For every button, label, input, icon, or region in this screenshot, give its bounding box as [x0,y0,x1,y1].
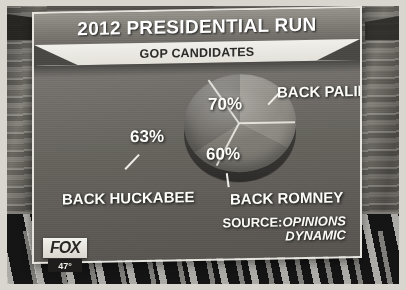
fox-logo: FOX [43,238,87,258]
source-name-line-2: DYNAMIC [222,229,346,245]
page-title: 2012 PRESIDENTIAL RUN [77,13,316,39]
category-label-huckabee: BACK HUCKABEE [62,188,195,207]
leader-line-huckabee [124,154,139,170]
graphic-subtitle: GOP CANDIDATES [140,44,255,60]
category-label-palin: BACK PALIN [277,82,362,101]
value-label-romney: 60% [206,144,240,165]
category-label-romney: BACK ROMNEY [230,188,343,207]
source-attribution: SOURCE:OPINIONS DYNAMIC [222,214,346,245]
pie-chart: 70% 63% 60% BACK PALIN BACK HUCKABEE BAC… [34,60,360,262]
photograph-frame: 2012 PRESIDENTIAL RUN GOP CANDIDATES [0,0,406,290]
fox-logo-text: FOX [50,239,80,257]
value-label-palin: 70% [208,94,242,115]
tv-studio-scene: 2012 PRESIDENTIAL RUN GOP CANDIDATES [7,6,399,284]
temperature-badge: 47° [48,259,82,272]
network-logo-bug: FOX 47° [43,238,87,272]
broadcast-graphic-panel: 2012 PRESIDENTIAL RUN GOP CANDIDATES [32,6,362,264]
value-label-huckabee: 63% [130,127,164,148]
temperature-value: 47° [58,261,72,271]
source-prefix: SOURCE: [222,214,282,230]
